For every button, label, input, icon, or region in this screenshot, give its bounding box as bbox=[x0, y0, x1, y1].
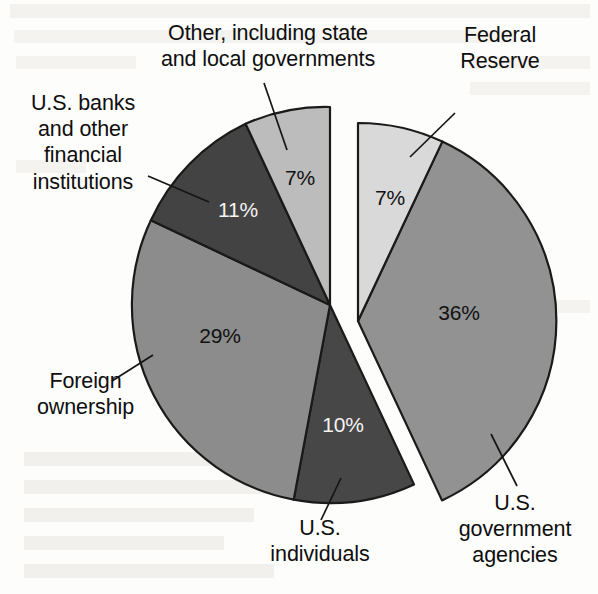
pie-value-foreign-ownership: 29% bbox=[199, 324, 240, 347]
pie-value-us-individuals: 10% bbox=[322, 413, 363, 436]
pie-value-us-banks: 11% bbox=[218, 198, 258, 221]
label-other-state-local: Other, including state and local governm… bbox=[128, 20, 408, 72]
label-foreign-ownership: Foreign ownership bbox=[18, 368, 153, 420]
label-us-government-agencies: U.S. government agencies bbox=[440, 490, 590, 569]
label-us-individuals: U.S. individuals bbox=[250, 515, 390, 567]
pie-value-federal-reserve: 7% bbox=[375, 186, 405, 209]
pie-chart-figure: 7% 11% 29% 10% 7% 36% Other, including s… bbox=[0, 0, 598, 594]
pie-value-other-state-local: 7% bbox=[285, 166, 315, 189]
label-federal-reserve: Federal Reserve bbox=[440, 22, 560, 74]
pie-value-us-government-agencies: 36% bbox=[438, 301, 479, 324]
label-us-banks: U.S. banks and other financial instituti… bbox=[8, 90, 158, 195]
